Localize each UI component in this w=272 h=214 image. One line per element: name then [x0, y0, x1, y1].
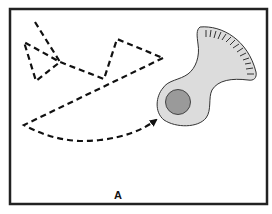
nucleus: [166, 90, 191, 115]
panel-label: A: [114, 189, 122, 201]
diagram-canvas: A: [0, 0, 272, 214]
